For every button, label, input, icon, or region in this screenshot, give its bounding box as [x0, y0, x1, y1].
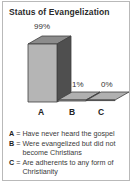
chart-legend: A = Have never heard the gospel B = Were…	[9, 129, 127, 177]
bar-b-front	[58, 100, 86, 101]
bar-c-front	[87, 100, 115, 101]
chart-panel: Status of Evangelization 99% 1% 0% A B C…	[2, 1, 130, 181]
page-title: Status of Evangelization	[9, 7, 110, 17]
bar-chart: 99% 1% 0% A B C	[3, 18, 129, 122]
legend-text-b: Were evangelized but did not become Chri…	[22, 139, 127, 157]
legend-key-a: A	[9, 129, 14, 138]
legend-text-c: Are adherents to any form of Christianit…	[22, 158, 127, 176]
value-label-c: 0%	[101, 80, 113, 89]
legend-item: B = Were evangelized but did not become …	[9, 139, 127, 157]
legend-text-a: Have never heard the gospel	[22, 129, 127, 138]
legend-key-b: B	[9, 139, 14, 148]
legend-item: A = Have never heard the gospel	[9, 129, 127, 138]
bar-a-front	[28, 44, 57, 102]
legend-separator: =	[16, 158, 20, 167]
value-label-a: 99%	[34, 22, 50, 31]
axis-label-a: A	[38, 107, 44, 117]
bar-a-side	[57, 36, 71, 102]
legend-separator: =	[16, 139, 20, 148]
chart-svg	[3, 18, 129, 122]
value-label-b: 1%	[72, 80, 84, 89]
legend-key-c: C	[9, 158, 14, 167]
legend-separator: =	[16, 129, 20, 138]
axis-label-b: B	[69, 107, 75, 117]
axis-label-c: C	[98, 107, 104, 117]
legend-item: C = Are adherents to any form of Christi…	[9, 158, 127, 176]
